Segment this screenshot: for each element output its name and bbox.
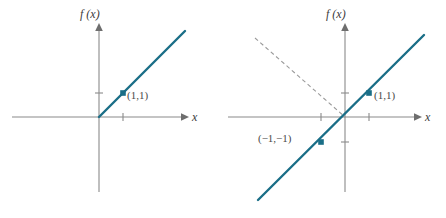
right-y-axis-label: f (x) xyxy=(326,8,346,20)
right-point-label-1-1: (1,1) xyxy=(374,90,395,101)
right-point-1-1-marker xyxy=(366,90,372,96)
left-point-label-1-1: (1,1) xyxy=(127,90,148,101)
right-y-axis-arrowhead xyxy=(341,23,349,31)
right-dashed-reflection-line xyxy=(255,38,345,117)
right-graph-svg xyxy=(223,0,446,218)
left-x-axis-label: x xyxy=(192,111,197,123)
right-graph-panel: f (x) x (1,1) (−1,−1) xyxy=(223,0,446,218)
left-y-axis-arrowhead xyxy=(95,23,103,31)
left-graph-svg xyxy=(0,0,223,218)
right-x-axis-arrowhead xyxy=(414,113,422,121)
figure-container: f (x) x (1,1) f (x) x (1,1) xyxy=(0,0,446,218)
left-function-line xyxy=(99,31,185,117)
left-y-axis-label: f (x) xyxy=(80,8,100,20)
right-point-label-neg1-neg1: (−1,−1) xyxy=(258,133,291,144)
right-point-neg1-neg1-marker xyxy=(318,139,324,145)
left-point-1-1-marker xyxy=(120,90,126,96)
right-x-axis-label: x xyxy=(425,111,430,123)
left-graph-panel: f (x) x (1,1) xyxy=(0,0,223,218)
left-x-axis-arrowhead xyxy=(181,113,189,121)
